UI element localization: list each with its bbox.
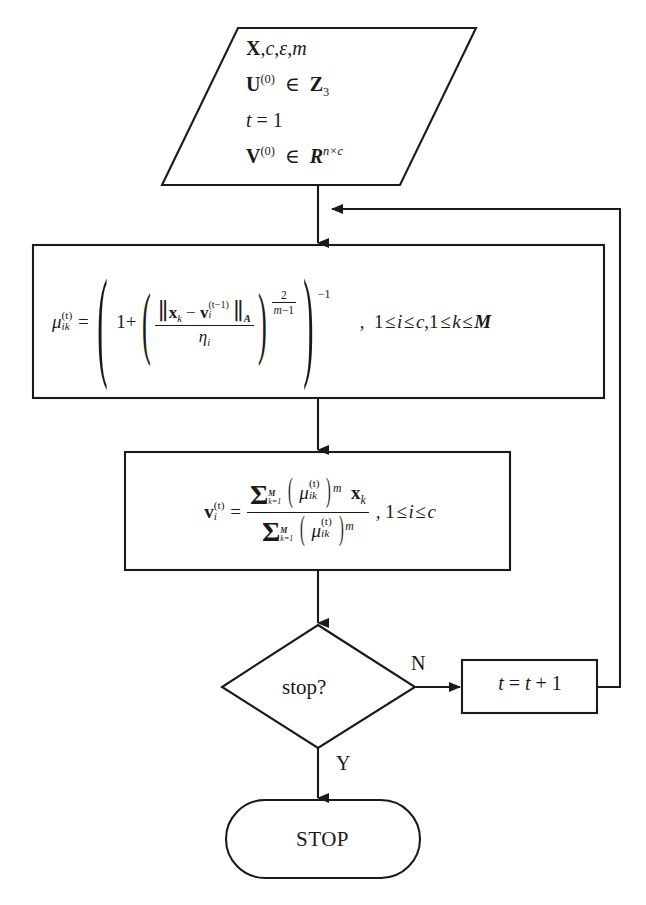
input-line-1: X,c,ε,m [246, 30, 486, 66]
membership-equation: μ(t)ik = ( 1+ ( ∥xk − v(t−1)i ∥A ηi ) 2 … [52, 262, 598, 382]
centroid-equation-body: v(t)i = ΣMk=1 ( μ(t)ik )m xk ΣMk=1 ( μ(t… [204, 476, 436, 548]
input-parameters-text: X,c,ε,m U(0) ∈ Z3 t = 1 V(0) ∈ Rn×c [246, 30, 486, 174]
branch-label-no: N [411, 652, 425, 675]
input-line-2: U(0) ∈ Z3 [246, 66, 486, 102]
centroid-condition: , 1 ≤ i ≤ c [376, 501, 436, 523]
branch-label-yes: Y [336, 752, 350, 775]
centroid-equation: v(t)i = ΣMk=1 ( μ(t)ik )m xk ΣMk=1 ( μ(t… [140, 462, 500, 562]
membership-conditions: , 1 ≤ i ≤ c,1 ≤ k ≤ M [360, 311, 492, 333]
membership-equation-body: μ(t)ik = ( 1+ ( ∥xk − v(t−1)i ∥A ηi ) 2 … [52, 293, 330, 351]
increment-label: t = t + 1 [470, 672, 590, 695]
input-line-3: t = 1 [246, 102, 486, 138]
input-line-4: V(0) ∈ Rn×c [246, 138, 486, 174]
decision-label: stop? [282, 675, 326, 700]
stop-terminator-label: STOP [240, 827, 405, 852]
